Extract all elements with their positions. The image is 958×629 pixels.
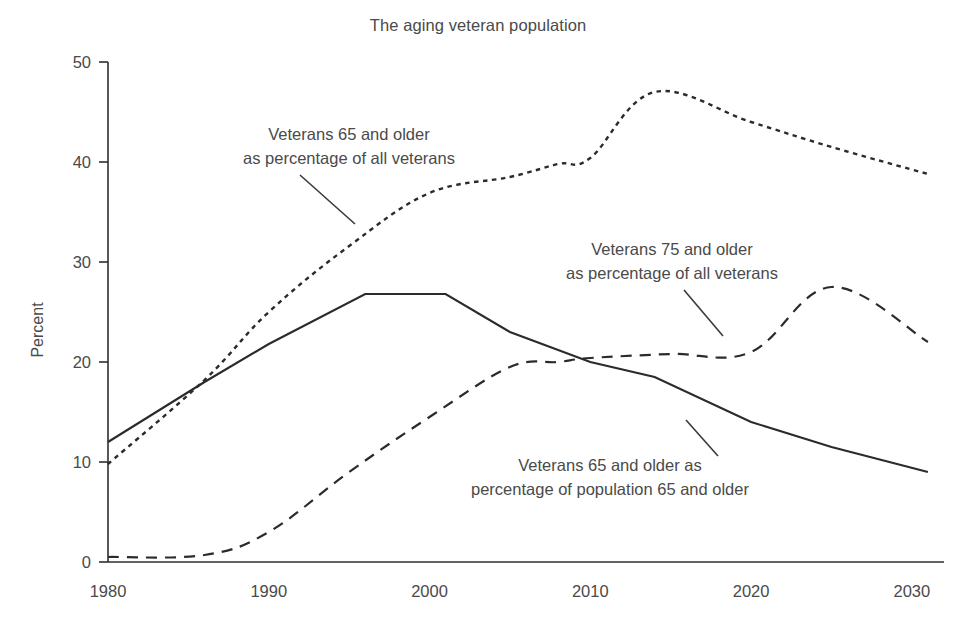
leader-line-65-population — [686, 420, 718, 456]
annotation-75-all-veterans-line1: Veterans 75 and older — [591, 240, 753, 258]
x-tick-label: 2030 — [893, 582, 930, 600]
y-axis-ticks — [99, 62, 108, 562]
series-line-1 — [108, 287, 928, 558]
annotation-75-all-veterans-line2: as percentage of all veterans — [566, 264, 778, 282]
x-tick-label: 2010 — [572, 582, 609, 600]
y-tick-label: 20 — [73, 353, 91, 371]
annotation-75-all-veterans: Veterans 75 and older as percentage of a… — [566, 240, 778, 282]
series-line-0 — [108, 91, 928, 464]
x-tick-label: 1980 — [90, 582, 127, 600]
annotation-65-population: Veterans 65 and older as percentage of p… — [471, 456, 749, 498]
annotation-65-population-line1: Veterans 65 and older as — [518, 456, 701, 474]
line-chart: The aging veteran population Percent 010… — [0, 0, 958, 629]
annotation-65-all-veterans: Veterans 65 and older as percentage of a… — [243, 125, 455, 167]
y-axis-tick-labels: 01020304050 — [73, 53, 91, 571]
y-tick-label: 10 — [73, 453, 91, 471]
chart-figure: The aging veteran population Percent 010… — [0, 0, 958, 629]
leader-line-65-all-veterans — [300, 175, 355, 224]
series-line-2 — [108, 294, 928, 472]
y-tick-label: 30 — [73, 253, 91, 271]
y-tick-label: 50 — [73, 53, 91, 71]
x-tick-label: 2020 — [733, 582, 770, 600]
annotation-65-all-veterans-line2: as percentage of all veterans — [243, 149, 455, 167]
y-tick-label: 40 — [73, 153, 91, 171]
y-tick-label: 0 — [82, 553, 91, 571]
x-tick-label: 2000 — [411, 582, 448, 600]
chart-title: The aging veteran population — [370, 16, 587, 34]
x-tick-label: 1990 — [250, 582, 287, 600]
annotation-65-all-veterans-line1: Veterans 65 and older — [268, 125, 430, 143]
leader-line-75-all-veterans — [684, 290, 723, 336]
y-axis-title: Percent — [29, 302, 46, 358]
x-axis-tick-labels: 198019902000201020202030 — [90, 582, 931, 600]
annotation-65-population-line2: percentage of population 65 and older — [471, 480, 749, 498]
